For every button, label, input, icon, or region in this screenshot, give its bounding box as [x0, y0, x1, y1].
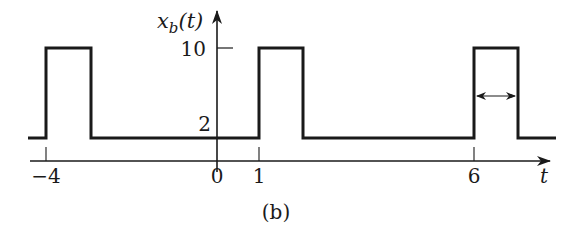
y-axis-label: xb(t): [157, 9, 203, 37]
x-tick-label-0: 0: [211, 164, 224, 188]
pulse-train-plot: xb(t) 10 2 −4 0 1 6 t (b): [0, 0, 577, 244]
x-tick-label-1: 1: [253, 164, 266, 188]
figure-caption: (b): [262, 200, 290, 224]
figure-b: xb(t) 10 2 −4 0 1 6 t (b): [0, 0, 577, 244]
pulse-train-waveform: [28, 48, 556, 138]
y-tick-label-10: 10: [181, 37, 206, 61]
x-tick-label-minus4: −4: [31, 164, 60, 188]
x-tick-label-6: 6: [468, 164, 481, 188]
x-axis-label: t: [540, 164, 549, 188]
y-tick-label-2: 2: [198, 112, 211, 136]
